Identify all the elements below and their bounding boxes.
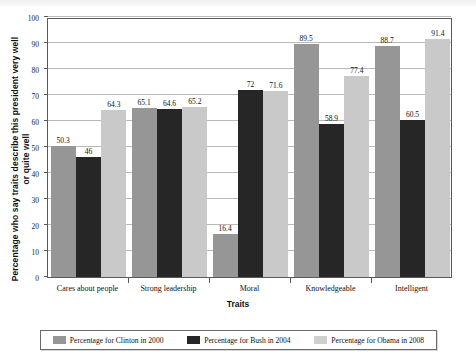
bar-value-label: 72 [247,80,255,89]
bar-value-label: 88.7 [381,36,394,45]
bar: 58.9 [319,124,344,277]
y-axis-tick-label: 50 [32,144,40,153]
y-axis-tick-label: 10 [32,248,40,257]
x-axis-tick-mark [209,278,210,283]
x-axis-tick-mark [128,278,129,283]
legend-item[interactable]: Percentage for Bush in 2004 [187,336,290,345]
y-axis-tick-mark [44,146,48,147]
bar-value-label: 50.3 [57,136,70,145]
bar-chart-figure: Percentage who say traits describe this … [0,0,476,360]
x-axis-tick-mark [371,278,372,283]
bar: 46 [76,157,101,277]
y-axis-tick-mark [44,172,48,173]
y-axis-tick-label: 100 [28,14,39,23]
bar-value-label: 60.5 [406,110,419,119]
bar: 60.5 [400,120,425,277]
bar-value-label: 65.1 [138,98,151,107]
bar: 89.5 [294,44,319,277]
y-axis-tick-mark [44,276,48,277]
bar: 64.6 [157,109,182,277]
y-axis-tick-mark [44,68,48,69]
y-axis-tick-label: 90 [32,40,40,49]
y-axis-tick-label: 40 [32,170,40,179]
bar: 88.7 [375,46,400,277]
y-axis-tick-mark [44,120,48,121]
legend-color-swatch [187,336,200,344]
bar: 65.2 [182,107,207,277]
y-axis-tick-mark [44,16,48,17]
y-axis-tick-mark [44,42,48,43]
bar: 65.1 [132,108,157,277]
x-axis-tick-mark [290,278,291,283]
bar: 71.6 [263,91,288,277]
bar: 77.4 [344,76,369,277]
bar-value-label: 65.2 [188,97,201,106]
bar: 16.4 [213,234,238,277]
x-axis-category-label: Cares about people [57,284,118,293]
y-axis-tick-mark [44,224,48,225]
legend-item[interactable]: Percentage for Clinton in 2000 [53,336,164,345]
legend-label: Percentage for Bush in 2004 [204,336,290,345]
bar-value-label: 64.6 [163,99,176,108]
bar: 50.3 [51,146,76,277]
bar: 64.3 [101,110,126,277]
x-axis-category-label: Intelligent [395,284,428,293]
y-axis-tick-label: 70 [32,92,40,101]
y-axis-tick-label: 30 [32,196,40,205]
legend-label: Percentage for Obama in 2008 [331,336,424,345]
y-axis-tick-label: 20 [32,222,40,231]
y-axis-tick-label: 0 [35,274,39,283]
chart-legend: Percentage for Clinton in 2000Percentage… [40,330,437,350]
bar-value-label: 58.9 [325,114,338,123]
bar: 91.4 [425,39,450,277]
legend-item[interactable]: Percentage for Obama in 2008 [314,336,424,345]
x-axis-category-label: Moral [240,284,260,293]
y-axis-tick-mark [44,250,48,251]
bar-value-label: 16.4 [219,224,232,233]
bar: 72 [238,90,263,277]
x-axis-category-label: Strong leadership [140,284,196,293]
plot-area: 50.34664.365.164.665.216.47271.689.558.9… [47,18,452,278]
bar-value-label: 89.5 [300,34,313,43]
legend-label: Percentage for Clinton in 2000 [70,336,164,345]
y-axis-tick-mark [44,94,48,95]
x-axis-category-label: Knowledgeable [305,284,355,293]
legend-color-swatch [53,336,66,344]
y-axis-tick-mark [44,198,48,199]
bar-value-label: 46 [85,147,93,156]
bar-value-label: 64.3 [107,100,120,109]
legend-color-swatch [314,336,327,344]
y-axis-tick-label: 80 [32,66,40,75]
bar-value-label: 91.4 [431,29,444,38]
gridline [48,16,451,17]
x-axis-title: Traits [0,299,476,309]
y-axis-tick-label: 60 [32,118,40,127]
bar-value-label: 77.4 [350,66,363,75]
bar-value-label: 71.6 [269,81,282,90]
